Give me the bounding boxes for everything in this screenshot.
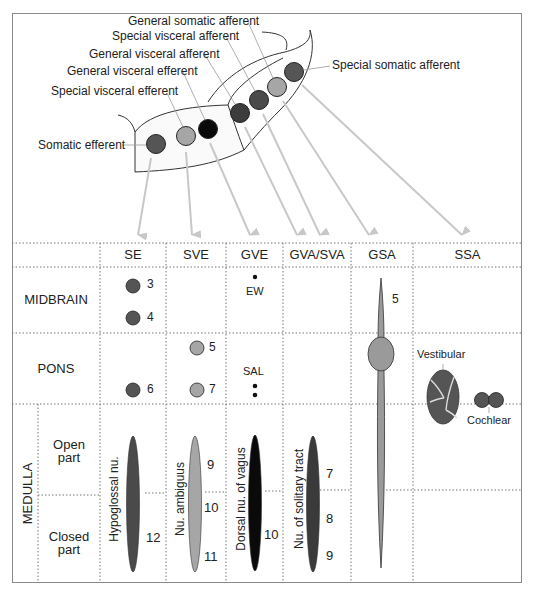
- hypoglossal-nucleus: [127, 436, 140, 572]
- gsa-circle: [268, 78, 287, 97]
- row-label-pons: PONS: [12, 361, 100, 376]
- arrow-sva: [263, 114, 320, 235]
- nucleus-ambiguus-label: Nu. ambiguus: [173, 449, 187, 549]
- label-special-somatic-afferent: Special somatic afferent: [332, 58, 460, 72]
- pons-nuclei: [126, 341, 204, 397]
- row-label-medulla-closed: Closed part: [38, 530, 100, 556]
- arrow-ssa: [302, 85, 462, 235]
- ambiguus-number-11: 11: [204, 549, 218, 564]
- cochlear-nucleus-1: [475, 393, 490, 408]
- sve-nerve-number-5: 5: [209, 340, 216, 354]
- solitary-number-9: 9: [326, 548, 333, 563]
- label-general-visceral-afferent: General visceral afferent: [89, 47, 220, 61]
- col-header-ssa: SSA: [413, 247, 522, 262]
- hypoglossal-nucleus-label: Hypoglossal nu.: [107, 449, 121, 549]
- dorsal-nucleus-vagus-label: Dorsal nu. of vagus: [234, 439, 248, 559]
- leader-general-visceral-afferent: [205, 55, 235, 104]
- sve-nerve-number-7: 7: [209, 382, 216, 396]
- column-arrows: [138, 85, 462, 235]
- ambiguus-number-10: 10: [204, 500, 218, 515]
- se-circle: [147, 135, 166, 154]
- vestibular-label: Vestibular: [417, 348, 465, 360]
- ew-label: EW: [246, 285, 264, 297]
- row-label-midbrain: MIDBRAIN: [12, 292, 100, 307]
- sve-circle: [177, 127, 196, 146]
- nerve-number-4: 4: [147, 310, 154, 324]
- nerve-number-3: 3: [147, 277, 154, 291]
- sal-dot-upper: [253, 384, 258, 389]
- cochlear-label: Cochlear: [467, 414, 511, 426]
- midbrain-se-nuclei: [126, 279, 140, 325]
- medulla-nuclei: [127, 435, 320, 572]
- label-general-visceral-efferent: General visceral efferent: [67, 64, 198, 78]
- col-header-sve: SVE: [166, 247, 226, 262]
- col-header-se: SE: [100, 247, 166, 262]
- arrow-gsa: [283, 101, 369, 235]
- facial-motor-nucleus: [190, 383, 204, 397]
- trochlear-nucleus: [126, 311, 140, 325]
- leader-general-somatic-afferent: [248, 22, 273, 78]
- vagus-number-10: 10: [264, 527, 278, 542]
- col-header-gsa: GSA: [351, 247, 413, 262]
- motor-trigeminal-nucleus: [190, 341, 204, 355]
- label-special-visceral-afferent: Special visceral afferent: [112, 29, 239, 43]
- row-label-medulla-open: Open part: [38, 438, 100, 464]
- oculomotor-nucleus: [126, 279, 140, 293]
- gve-circle: [199, 120, 218, 139]
- cochlear-nucleus-2: [489, 393, 504, 408]
- gva-circle: [231, 104, 250, 123]
- ambiguus-number-9: 9: [207, 457, 214, 472]
- sal-dot-lower: [253, 393, 258, 398]
- arrow-gva: [245, 127, 297, 235]
- gsa-trigeminal-column: [368, 278, 394, 568]
- sva-circle: [250, 91, 269, 110]
- row-label-medulla: MEDULLA: [20, 454, 35, 534]
- ssa-circle: [285, 63, 304, 82]
- nerve-number-12: 12: [146, 530, 160, 545]
- col-header-gve: GVE: [226, 247, 283, 262]
- col-header-gva-sva: GVA/SVA: [283, 247, 351, 262]
- label-special-visceral-efferent: Special visceral efferent: [51, 84, 178, 98]
- gsa-nerve-number-5: 5: [392, 292, 399, 306]
- dorsal-nucleus-vagus: [249, 435, 262, 571]
- sal-label: SAL: [243, 365, 264, 377]
- nucleus-ambiguus: [189, 436, 202, 572]
- ew-nucleus-dot: [253, 275, 257, 279]
- solitary-tract-nucleus-label: Nu. of solitary tract: [292, 439, 306, 559]
- abducens-nucleus: [126, 383, 140, 397]
- label-general-somatic-afferent: General somatic afferent: [128, 14, 259, 28]
- solitary-number-8: 8: [326, 511, 333, 526]
- nucleus-solitary-tract: [307, 436, 320, 572]
- nerve-number-6: 6: [147, 382, 154, 396]
- solitary-number-7: 7: [326, 466, 333, 481]
- label-somatic-efferent: Somatic efferent: [38, 138, 125, 152]
